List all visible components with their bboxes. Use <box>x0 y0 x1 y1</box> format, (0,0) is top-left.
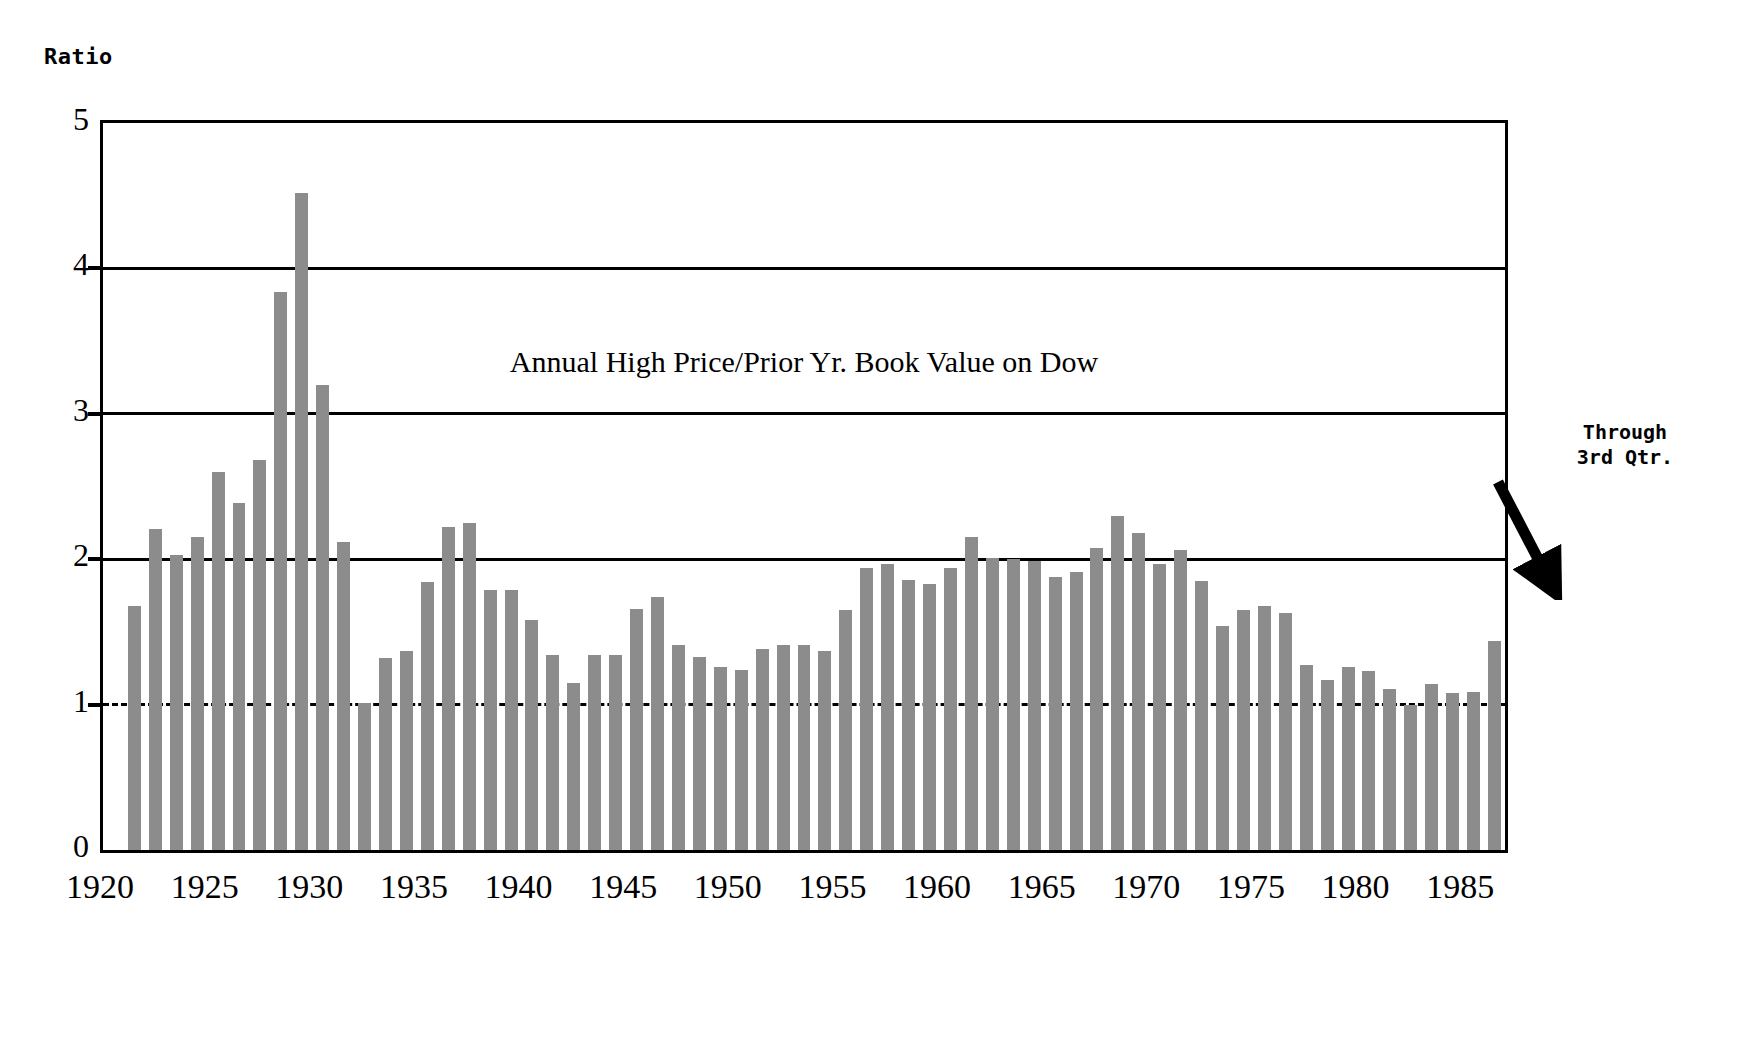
bar-1950 <box>735 670 748 850</box>
bar-1941 <box>546 655 559 850</box>
bar-1930 <box>316 385 329 850</box>
x-tick-label-1945: 1945 <box>589 868 657 906</box>
bar-1957 <box>881 564 894 850</box>
x-tick-label-1920: 1920 <box>66 868 134 906</box>
bar-1947 <box>672 645 685 850</box>
plot-inner-canvas: Annual High Price/Prior Yr. Book Value o… <box>103 123 1505 850</box>
bar-1965 <box>1049 577 1062 850</box>
x-tick-label-1930: 1930 <box>275 868 343 906</box>
bar-1972 <box>1195 581 1208 850</box>
bar-1925 <box>212 472 225 850</box>
bar-1929 <box>295 193 308 850</box>
y-tick-label-5: 5 <box>55 101 89 138</box>
y-tick-label-1: 1 <box>55 683 89 720</box>
bar-1959 <box>923 584 936 850</box>
bar-1926 <box>233 503 246 851</box>
bar-1971 <box>1174 550 1187 850</box>
bar-1975 <box>1258 606 1271 850</box>
bar-1922 <box>149 529 162 850</box>
x-tick-label-1970: 1970 <box>1112 868 1180 906</box>
bar-1968 <box>1111 516 1124 850</box>
bar-1963 <box>1007 559 1020 850</box>
x-tick-label-1950: 1950 <box>694 868 762 906</box>
x-tick-label-1960: 1960 <box>903 868 971 906</box>
bar-1960 <box>944 568 957 850</box>
bar-1942 <box>567 683 580 850</box>
y-tick-mark-2 <box>88 557 102 561</box>
bar-1932 <box>358 703 371 850</box>
x-tick-label-1925: 1925 <box>171 868 239 906</box>
bar-1976 <box>1279 613 1292 850</box>
bar-1966 <box>1070 572 1083 850</box>
bar-1977 <box>1300 665 1313 850</box>
y-tick-mark-4 <box>88 266 102 270</box>
bar-1970 <box>1153 564 1166 850</box>
bar-1961 <box>965 537 978 850</box>
y-axis-caption: Ratio <box>44 44 113 69</box>
bar-1948 <box>693 657 706 850</box>
bar-1931 <box>337 542 350 850</box>
y-tick-mark-1 <box>88 703 102 707</box>
x-tick-label-1955: 1955 <box>798 868 866 906</box>
x-tick-label-1935: 1935 <box>380 868 448 906</box>
bar-1964 <box>1028 561 1041 850</box>
bar-1984 <box>1446 693 1459 850</box>
bar-1978 <box>1321 680 1334 850</box>
bar-series <box>103 123 1505 850</box>
y-tick-label-0: 0 <box>55 828 89 865</box>
bar-1956 <box>860 568 873 850</box>
bar-1969 <box>1132 533 1145 850</box>
bar-1944 <box>609 655 622 850</box>
bar-1983 <box>1425 684 1438 850</box>
bar-1935 <box>421 582 434 850</box>
bar-1934 <box>400 651 413 850</box>
bar-1985 <box>1467 692 1480 850</box>
bar-1928 <box>274 292 287 850</box>
x-tick-label-1985: 1985 <box>1426 868 1494 906</box>
bar-1937 <box>463 523 476 850</box>
bar-1940 <box>525 620 538 850</box>
bar-1979 <box>1342 667 1355 850</box>
bar-1986 <box>1488 641 1501 850</box>
y-tick-label-4: 4 <box>55 246 89 283</box>
bar-1982 <box>1404 705 1417 850</box>
bar-1927 <box>253 460 266 850</box>
x-tick-label-1965: 1965 <box>1008 868 1076 906</box>
bar-1949 <box>714 667 727 850</box>
annotation-line-2: 3rd Qtr. <box>1540 445 1710 470</box>
bar-1936 <box>442 527 455 850</box>
bar-1981 <box>1383 689 1396 850</box>
annotation-line-1: Through <box>1540 420 1710 445</box>
chart-plot-area: Annual High Price/Prior Yr. Book Value o… <box>100 120 1508 853</box>
x-tick-label-1975: 1975 <box>1217 868 1285 906</box>
bar-1962 <box>986 558 999 850</box>
bar-1955 <box>839 610 852 850</box>
bar-1946 <box>651 597 664 850</box>
bar-1967 <box>1090 548 1103 850</box>
bar-1952 <box>777 645 790 850</box>
y-tick-label-3: 3 <box>55 392 89 429</box>
bar-1923 <box>170 555 183 850</box>
y-tick-label-2: 2 <box>55 537 89 574</box>
bar-1974 <box>1237 610 1250 850</box>
bar-1938 <box>484 590 497 850</box>
x-axis-ticks: 1920192519301935194019451950195519601965… <box>100 868 1508 918</box>
bar-1924 <box>191 537 204 850</box>
bar-1939 <box>505 590 518 850</box>
annotation-through-3rd-qtr: Through 3rd Qtr. <box>1540 420 1710 470</box>
y-tick-mark-3 <box>88 412 102 416</box>
bar-1973 <box>1216 626 1229 850</box>
bar-1953 <box>798 645 811 850</box>
bar-1980 <box>1362 671 1375 850</box>
bar-1958 <box>902 580 915 850</box>
bar-1921 <box>128 606 141 850</box>
bar-1951 <box>756 649 769 850</box>
x-tick-label-1980: 1980 <box>1322 868 1390 906</box>
bar-1954 <box>818 651 831 850</box>
bar-1945 <box>630 609 643 850</box>
bar-1943 <box>588 655 601 850</box>
x-tick-label-1940: 1940 <box>485 868 553 906</box>
bar-1933 <box>379 658 392 850</box>
